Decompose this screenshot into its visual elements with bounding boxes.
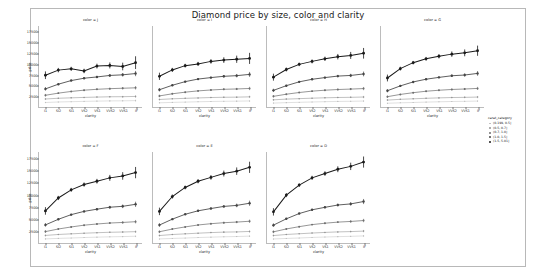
data-point-marker bbox=[158, 75, 161, 78]
series-group bbox=[45, 235, 136, 239]
series-group bbox=[272, 199, 365, 227]
x-axis-tick-label: VVS1 bbox=[461, 109, 470, 113]
data-point-marker bbox=[337, 204, 339, 206]
data-point-marker bbox=[184, 226, 186, 228]
series-group bbox=[159, 100, 250, 103]
legend-item[interactable]: (1.5, 5.01] bbox=[487, 140, 531, 145]
plot-area bbox=[381, 26, 484, 107]
data-point-marker bbox=[386, 96, 388, 98]
data-point-marker bbox=[438, 97, 440, 99]
data-point-marker bbox=[412, 98, 414, 100]
data-point-marker bbox=[58, 234, 60, 236]
x-axis-tick-label: VS2 bbox=[309, 245, 315, 249]
data-point-marker bbox=[210, 176, 213, 179]
data-point-marker bbox=[362, 73, 364, 75]
y-axis-tick-label: 5000 bbox=[29, 84, 38, 88]
x-axis-tick-mark bbox=[45, 107, 46, 109]
series-line bbox=[45, 236, 135, 239]
data-point-marker bbox=[285, 194, 288, 197]
data-point-marker bbox=[159, 99, 161, 101]
x-axis-tick-mark bbox=[338, 243, 339, 245]
data-point-marker bbox=[198, 101, 199, 102]
data-point-marker bbox=[425, 78, 427, 80]
data-point-marker bbox=[311, 209, 313, 211]
data-point-marker bbox=[273, 238, 274, 239]
data-point-marker bbox=[464, 97, 466, 99]
data-point-marker bbox=[84, 101, 85, 102]
data-point-marker bbox=[400, 99, 402, 101]
data-point-marker bbox=[83, 89, 85, 91]
figure: Diamond price by size, color and clarity… bbox=[0, 0, 533, 275]
data-point-marker bbox=[57, 83, 59, 85]
data-point-marker bbox=[412, 81, 414, 83]
x-axis-tick-mark bbox=[159, 243, 160, 245]
data-point-marker bbox=[273, 103, 274, 104]
x-axis-tick-mark bbox=[198, 107, 199, 109]
x-axis-tick-mark bbox=[58, 107, 59, 109]
data-point-marker bbox=[184, 64, 187, 67]
data-point-marker bbox=[122, 231, 124, 233]
data-point-marker bbox=[463, 51, 466, 54]
x-axis-tick-label: VVS1 bbox=[119, 109, 128, 113]
data-point-marker bbox=[286, 102, 287, 103]
y-axis-tick-label: 5000 bbox=[29, 218, 38, 222]
x-axis-tick-label: VS1 bbox=[94, 245, 100, 249]
data-point-marker bbox=[159, 238, 160, 239]
x-axis-tick-label: VS1 bbox=[322, 109, 328, 113]
x-axis-tick-label: SI1 bbox=[183, 109, 188, 113]
facet-panel: color = DI1SI2SI1VS2VS1VVS2VVS1IFclarity bbox=[266, 152, 370, 244]
data-point-marker bbox=[324, 232, 326, 234]
data-point-marker bbox=[171, 93, 173, 95]
y-axis-label: price bbox=[28, 62, 32, 71]
data-point-marker bbox=[122, 87, 124, 89]
data-point-marker bbox=[249, 96, 251, 98]
data-point-marker bbox=[349, 54, 352, 57]
series-group bbox=[272, 157, 365, 216]
data-point-marker bbox=[286, 234, 288, 236]
data-point-marker bbox=[223, 222, 225, 224]
x-axis-tick-mark bbox=[478, 107, 479, 109]
data-point-marker bbox=[285, 68, 288, 71]
legend-item-label: (0.199, 0.5] bbox=[493, 122, 511, 125]
data-point-marker bbox=[235, 74, 237, 76]
data-point-marker bbox=[171, 68, 174, 71]
data-point-marker bbox=[109, 232, 111, 234]
series-group bbox=[159, 96, 251, 101]
x-axis-tick-mark bbox=[224, 107, 225, 109]
data-point-marker bbox=[298, 226, 300, 228]
x-axis-tick-label: SI1 bbox=[69, 109, 74, 113]
data-point-marker bbox=[122, 221, 124, 223]
data-point-marker bbox=[135, 236, 136, 237]
data-point-marker bbox=[70, 67, 73, 70]
series-group bbox=[158, 220, 250, 234]
x-axis-tick-label: VS2 bbox=[423, 109, 429, 113]
x-axis-tick-mark bbox=[312, 107, 313, 109]
data-point-marker bbox=[298, 98, 300, 100]
x-axis-tick-mark bbox=[299, 107, 300, 109]
data-point-marker bbox=[158, 95, 160, 97]
data-point-marker bbox=[197, 232, 199, 234]
data-point-marker bbox=[363, 100, 364, 101]
data-point-marker bbox=[210, 207, 212, 209]
series-line bbox=[273, 221, 363, 232]
data-point-marker bbox=[96, 180, 99, 183]
x-axis-tick-label: VS1 bbox=[94, 109, 100, 113]
data-point-marker bbox=[324, 57, 327, 60]
data-point-marker bbox=[299, 102, 300, 103]
data-point-marker bbox=[386, 90, 388, 92]
x-axis-tick-mark bbox=[185, 107, 186, 109]
data-point-marker bbox=[236, 221, 238, 223]
series-group bbox=[45, 230, 137, 236]
data-point-marker bbox=[197, 210, 199, 212]
data-point-marker bbox=[350, 236, 351, 237]
x-axis-tick-label: I1 bbox=[272, 109, 275, 113]
data-point-marker bbox=[272, 95, 274, 97]
facet-panel: color = II1SI2SI1VS2VS1VVS2VVS1IFclarity bbox=[152, 26, 256, 108]
data-point-marker bbox=[197, 90, 199, 92]
data-point-marker bbox=[362, 200, 364, 202]
data-point-marker bbox=[71, 101, 72, 102]
data-point-marker bbox=[451, 89, 453, 91]
data-point-marker bbox=[184, 186, 187, 189]
data-point-marker bbox=[248, 166, 251, 169]
x-axis-tick-label: I1 bbox=[44, 245, 47, 249]
